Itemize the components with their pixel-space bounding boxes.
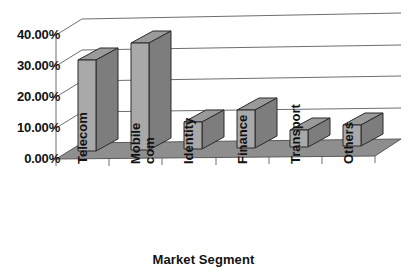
x-tick-label-telecom: Telecom bbox=[76, 112, 89, 164]
x-tick-label-mobile: Mobile bbox=[129, 123, 142, 164]
x-axis-title: Market Segment bbox=[0, 252, 407, 267]
x-tick-label-finance: Finance bbox=[236, 115, 249, 164]
x-tick-label-others: Others bbox=[342, 122, 355, 164]
x-tick-label-transport: Transport bbox=[289, 104, 302, 164]
x-tick-label-identity: Identity bbox=[182, 118, 195, 164]
category-axis-labels: Telecom Mobile com Identity Finance Tran… bbox=[0, 0, 407, 278]
x-tick-label-com: com bbox=[143, 137, 156, 164]
bar-chart: 40.00% 30.00% 20.00% 10.00% 0.00% Teleco… bbox=[0, 0, 407, 278]
